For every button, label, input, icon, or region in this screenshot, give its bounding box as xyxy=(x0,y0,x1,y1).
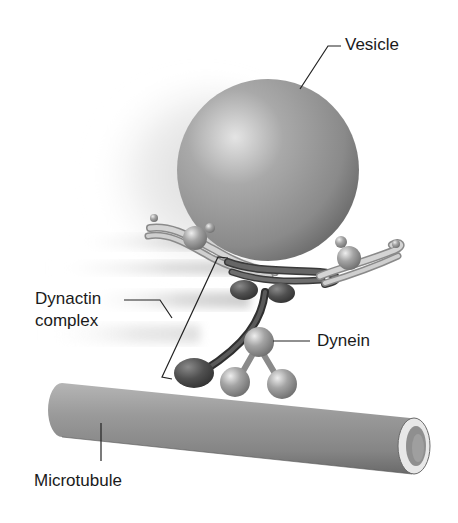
microtubule-label: Microtubule xyxy=(34,470,122,492)
dynactin-label-line1: Dynactin xyxy=(35,288,101,310)
dynein-label: Dynein xyxy=(317,330,370,352)
diagram-canvas xyxy=(0,0,458,523)
dynactin-label-line2: complex xyxy=(35,310,98,332)
dynein xyxy=(220,327,297,399)
vesicle-leader-line xyxy=(300,46,341,89)
dynein-vesicle-diagram: Vesicle Dynactin complex Dynein Microtub… xyxy=(0,0,458,523)
microtubule xyxy=(48,383,430,474)
vesicle-label: Vesicle xyxy=(345,34,399,56)
